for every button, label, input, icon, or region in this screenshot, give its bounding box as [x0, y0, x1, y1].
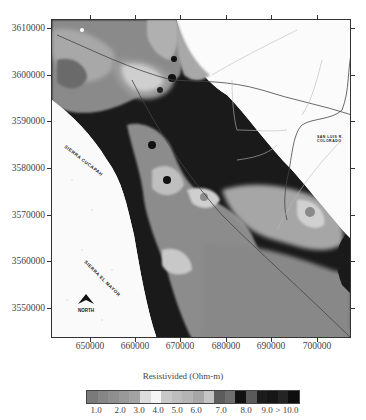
- colorbar-segment: [193, 391, 204, 403]
- colorbar: [86, 390, 300, 404]
- colorbar-segment: [98, 391, 109, 403]
- y-tick-3580000: 3580000: [0, 163, 51, 173]
- y-tick-label: 3570000: [12, 210, 51, 220]
- right-tick: [351, 121, 355, 122]
- y-tick-3590000: 3590000: [0, 116, 51, 126]
- colorbar-segment: [278, 391, 289, 403]
- colorbar-segment: [119, 391, 130, 403]
- x-tick-700000: 700000: [303, 341, 332, 351]
- label-san-luis-line2: COLORADO: [317, 139, 343, 143]
- right-tick: [351, 75, 355, 76]
- colorbar-segment: [87, 391, 98, 403]
- colorbar-segment: [225, 391, 236, 403]
- y-tick-3560000: 3560000: [0, 256, 51, 266]
- legend-title: Resistivided (Ohm-m): [0, 371, 366, 381]
- north-arrow-icon: [78, 294, 94, 304]
- north-label: NORTH: [73, 308, 99, 313]
- y-tick-label: 3600000: [12, 70, 51, 80]
- y-tick-label: 3610000: [12, 23, 51, 33]
- right-tick: [351, 261, 355, 262]
- x-tick-680000: 680000: [212, 341, 241, 351]
- x-tick-690000: 690000: [257, 341, 286, 351]
- right-tick: [351, 168, 355, 169]
- label-san-luis: SAN LUIS R. COLORADO: [317, 135, 343, 143]
- colorbar-segment: [267, 391, 278, 403]
- legend-tick-label: 9.0: [261, 405, 272, 415]
- colorbar-segment: [108, 391, 119, 403]
- legend-tick-label: 4.0: [152, 405, 163, 415]
- colorbar-segment: [235, 391, 246, 403]
- y-tick-3600000: 3600000: [0, 70, 51, 80]
- y-tick-label: 3590000: [12, 116, 51, 126]
- legend-tick-label: 2.0: [114, 405, 125, 415]
- legend-tick-label: 7.0: [215, 405, 226, 415]
- colorbar-segment: [161, 391, 172, 403]
- right-tick: [351, 28, 355, 29]
- legend-tick-label: 1.0: [90, 405, 101, 415]
- x-tick-660000: 660000: [121, 341, 150, 351]
- legend-tick-label: 8.0: [240, 405, 251, 415]
- y-tick-label: 3560000: [12, 256, 51, 266]
- colorbar-segment: [182, 391, 193, 403]
- colorbar-segment: [257, 391, 268, 403]
- y-tick-3610000: 3610000: [0, 23, 51, 33]
- colorbar-segment: [172, 391, 183, 403]
- x-tick-650000: 650000: [76, 341, 105, 351]
- colorbar-segment: [140, 391, 151, 403]
- colorbar-segment: [288, 391, 299, 403]
- north-arrow: NORTH: [73, 290, 99, 313]
- y-tick-3550000: 3550000: [0, 303, 51, 313]
- x-tick-670000: 670000: [166, 341, 195, 351]
- y-tick-label: 3550000: [12, 303, 51, 313]
- colorbar-segment: [246, 391, 257, 403]
- right-tick: [351, 215, 355, 216]
- legend-tick-label: 6.0: [190, 405, 201, 415]
- y-tick-3570000: 3570000: [0, 210, 51, 220]
- legend-tick-label: 3.0: [133, 405, 144, 415]
- legend-tick-label: > 10.0: [275, 405, 298, 415]
- colorbar-segment: [214, 391, 225, 403]
- colorbar-segment: [129, 391, 140, 403]
- legend-tick-label: 5.0: [171, 405, 182, 415]
- right-tick: [351, 308, 355, 309]
- colorbar-segment: [204, 391, 215, 403]
- colorbar-segment: [151, 391, 162, 403]
- y-tick-label: 3580000: [12, 163, 51, 173]
